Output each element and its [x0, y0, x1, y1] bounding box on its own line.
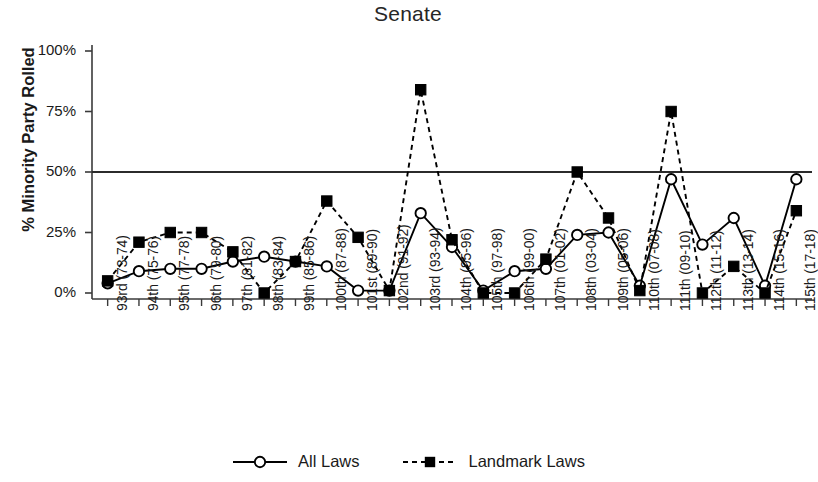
y-axis-tick-label: 0% — [14, 283, 76, 300]
x-axis-tick-label: 108th (03-04) — [583, 228, 599, 311]
x-axis-tick-label: 112th (11-12) — [708, 230, 724, 311]
data-point-marker — [509, 266, 519, 276]
y-axis-tick-label: 25% — [14, 223, 76, 240]
data-point-marker — [478, 288, 488, 298]
x-axis-tick-label: 111th (09-10) — [677, 230, 693, 311]
legend-open-circle-icon — [231, 453, 289, 471]
data-point-marker — [415, 208, 425, 218]
data-point-marker — [760, 288, 770, 298]
x-axis-tick-label: 106th (99-00) — [521, 228, 537, 311]
data-point-marker — [509, 288, 519, 298]
data-point-marker — [603, 227, 613, 237]
data-point-marker — [729, 213, 739, 223]
data-point-marker — [322, 196, 332, 206]
x-axis-tick-label: 93rd (73-74) — [114, 235, 130, 311]
data-point-marker — [196, 227, 206, 237]
x-axis-tick-label: 105th (97-98) — [489, 228, 505, 311]
y-axis-tick-label: 75% — [14, 102, 76, 119]
data-point-marker — [697, 239, 707, 249]
x-axis-tick-label: 95th (77-78) — [176, 236, 192, 311]
x-axis-tick-label: 94th (75-76) — [145, 236, 161, 311]
x-axis-tick-label: 102nd (91-92) — [395, 224, 411, 311]
data-point-marker — [603, 213, 613, 223]
x-axis-tick-label: 113th (13-14) — [740, 229, 756, 311]
data-point-marker — [541, 254, 551, 264]
x-axis-tick-label: 99th (85-86) — [301, 236, 317, 311]
data-point-marker — [572, 167, 582, 177]
data-point-marker — [384, 285, 394, 295]
data-point-marker — [165, 264, 175, 274]
data-point-marker — [572, 230, 582, 240]
data-point-marker — [353, 232, 363, 242]
data-point-marker — [415, 85, 425, 95]
x-axis-tick-label: 104th (95-96) — [458, 228, 474, 311]
data-point-marker — [228, 247, 238, 257]
data-point-marker — [666, 106, 676, 116]
data-point-marker — [134, 266, 144, 276]
data-point-marker — [791, 174, 801, 184]
data-point-marker — [165, 227, 175, 237]
x-axis-tick-label: 109th (05-06) — [615, 228, 631, 311]
data-point-marker — [697, 288, 707, 298]
x-axis-tick-label: 115th (17-18) — [802, 229, 818, 311]
x-axis-tick-label: 114th (15-16) — [771, 229, 787, 311]
data-point-marker — [729, 261, 739, 271]
data-point-marker — [666, 174, 676, 184]
y-axis-tick-label: 50% — [14, 162, 76, 179]
legend-label: Landmark Laws — [468, 452, 584, 471]
data-point-marker — [541, 264, 551, 274]
x-axis-tick-label: 101st (89-90) — [364, 229, 380, 311]
y-axis-tick-label: 100% — [14, 41, 76, 58]
x-axis-tick-label: 96th (79-80) — [208, 236, 224, 311]
data-point-marker — [635, 285, 645, 295]
data-point-marker — [447, 235, 457, 245]
data-point-marker — [196, 264, 206, 274]
data-point-marker — [134, 237, 144, 247]
x-axis-tick-label: 107th (01-02) — [552, 228, 568, 311]
x-axis-tick-label: 97th (81-82) — [239, 236, 255, 311]
legend-filled-square-icon — [401, 453, 459, 471]
legend-label: All Laws — [298, 452, 359, 471]
chart-legend: All LawsLandmark Laws — [0, 452, 816, 471]
data-point-marker — [791, 206, 801, 216]
legend-entry: Landmark Laws — [401, 452, 584, 471]
data-point-marker — [322, 261, 332, 271]
data-point-marker — [353, 285, 363, 295]
x-axis-tick-label: 98th (83-84) — [270, 236, 286, 311]
legend-entry: All Laws — [231, 452, 359, 471]
x-axis-tick-label: 110th (07-08) — [646, 229, 662, 311]
data-point-marker — [102, 276, 112, 286]
data-point-marker — [259, 288, 269, 298]
x-axis-tick-label: 103rd (93-94) — [427, 227, 443, 311]
data-point-marker — [290, 256, 300, 266]
x-axis-tick-label: 100th (87-88) — [333, 228, 349, 311]
data-point-marker — [259, 252, 269, 262]
